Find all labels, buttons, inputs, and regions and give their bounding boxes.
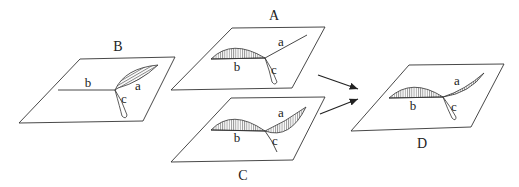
- branch-label-c: c: [121, 91, 127, 106]
- branch-a-shaded: [265, 107, 306, 133]
- panel-label-a: A: [269, 8, 280, 23]
- branch-label-a: a: [454, 73, 460, 88]
- branch-b-shaded: [211, 48, 265, 59]
- panel-label-c: C: [238, 168, 247, 183]
- arrow-a-to-d: [318, 75, 358, 89]
- branch-label-b: b: [234, 130, 241, 145]
- branch-label-c: c: [272, 133, 278, 148]
- arrow-c-to-d: [320, 99, 358, 114]
- branch-b-shaded: [389, 87, 443, 98]
- branch-label-c: c: [451, 99, 457, 114]
- diagram-canvas: B b a c A b a c C b a c D b a: [0, 0, 519, 187]
- branch-a-shaded: [443, 73, 484, 97]
- panel-c: C b a c: [171, 97, 325, 183]
- branch-label-b: b: [234, 59, 241, 74]
- branch-a-line: [265, 35, 307, 58]
- branch-label-c: c: [271, 62, 277, 77]
- panel-label-b: B: [113, 39, 122, 54]
- branch-label-b: b: [85, 75, 92, 90]
- branch-label-a: a: [278, 34, 284, 49]
- panel-b: B b a c: [19, 39, 175, 123]
- branch-label-b: b: [410, 98, 417, 113]
- panel-d: D b a c: [351, 64, 504, 151]
- branch-label-a: a: [278, 105, 284, 120]
- branch-label-a: a: [135, 78, 141, 93]
- panel-a: A b a c: [171, 8, 325, 90]
- panel-label-d: D: [417, 136, 427, 151]
